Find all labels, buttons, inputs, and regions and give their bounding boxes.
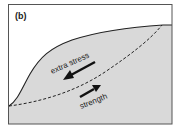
slope-diagram: (b) extra stress strength (0, 0, 177, 129)
panel-label: (b) (15, 11, 27, 21)
